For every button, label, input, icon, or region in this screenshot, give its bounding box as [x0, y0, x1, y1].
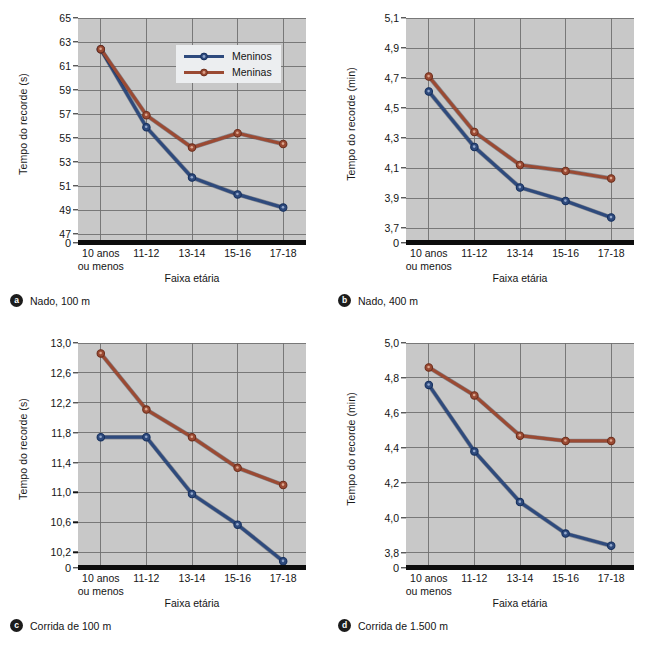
caption-text-b: Nado, 400 m — [358, 295, 418, 307]
y-axis-title-d: Tempo do recorde (min) — [345, 364, 357, 534]
y-tick-a-6: 53 — [59, 156, 78, 168]
y-tick-b-5: 4,1 — [384, 162, 406, 174]
x-tick-d-3: 15-16 — [552, 572, 579, 585]
x-tick-c-3: 15-16 — [224, 572, 251, 585]
y-tick-b-2: 4,7 — [384, 72, 406, 84]
y-tick-d-6: 3,8 — [384, 547, 406, 559]
legend-a: Meninos Meninas — [176, 45, 281, 83]
caption-badge-b: b — [338, 294, 351, 307]
caption-badge-c: c — [10, 619, 23, 632]
y-tick-a-8: 49 — [59, 204, 78, 216]
x-tick-c-0: 10 anosou menos — [78, 572, 124, 597]
x-axis-bar-a — [78, 240, 306, 245]
plot-area-d: 5,04,84,64,44,24,03,80 — [406, 343, 634, 565]
y-tick-a-7: 51 — [59, 180, 78, 192]
y-tick-c-7: 10,2 — [51, 546, 78, 558]
y-tick-c-3: 11,8 — [51, 427, 78, 439]
y-tick-a-1: 63 — [59, 36, 78, 48]
caption-a: a Nado, 100 m — [10, 294, 90, 307]
x-tick-b-0: 10 anosou menos — [406, 247, 452, 272]
y-tick-b-4: 4,3 — [384, 132, 406, 144]
y-tick-a-0: 65 — [59, 12, 78, 24]
y-tick-b-1: 4,9 — [384, 42, 406, 54]
x-axis-title-a: Faixa etária — [78, 272, 306, 284]
caption-d: d Corrida de 1.500 m — [338, 619, 448, 632]
y-tick-c-6: 10,6 — [51, 516, 78, 528]
caption-badge-a: a — [10, 294, 23, 307]
plot-canvas-d — [406, 343, 634, 565]
plot-area-c: 13,012,612,211,811,411,010,610,20 — [78, 343, 306, 565]
y-tick-d-2: 4,6 — [384, 407, 406, 419]
caption-badge-d: d — [338, 619, 351, 632]
x-tick-b-1: 11-12 — [461, 247, 487, 260]
legend-label-meninos: Meninos — [232, 50, 272, 62]
figure-sheet: Tempo do recorde (s) 6563615957555351494… — [0, 0, 655, 650]
x-axis-bar-c — [78, 565, 306, 570]
legend-swatch-meninos — [183, 51, 225, 62]
x-tick-d-4: 17-18 — [598, 572, 625, 585]
plot-canvas-c — [78, 343, 306, 565]
x-axis-bar-d — [406, 565, 634, 570]
y-tick-c-0: 13,0 — [51, 337, 78, 349]
legend-label-meninas: Meninas — [232, 66, 272, 78]
x-tick-a-0: 10 anosou menos — [78, 247, 124, 272]
plot-area-b: 5,14,94,74,54,34,13,93,70 — [406, 18, 634, 240]
y-tick-a-3: 59 — [59, 84, 78, 96]
y-tick-c-2: 12,2 — [51, 397, 78, 409]
x-tick-d-0: 10 anosou menos — [406, 572, 452, 597]
x-axis-title-b: Faixa etária — [406, 272, 634, 284]
y-tick-d-1: 4,8 — [384, 372, 406, 384]
x-tick-c-1: 11-12 — [133, 572, 159, 585]
caption-c: c Corrida de 100 m — [10, 619, 111, 632]
chart-panel-d: Tempo do recorde (min) 5,04,84,64,44,24,… — [328, 325, 655, 650]
x-axis-bar-b — [406, 240, 634, 245]
y-tick-b-3: 4,5 — [384, 102, 406, 114]
caption-text-c: Corrida de 100 m — [30, 620, 111, 632]
plot-canvas-b — [406, 18, 634, 240]
y-tick-d-4: 4,2 — [384, 477, 406, 489]
y-tick-c-4: 11,4 — [51, 457, 78, 469]
x-tick-d-2: 13-14 — [507, 572, 534, 585]
y-axis-title-a: Tempo do recorde (s) — [17, 39, 29, 209]
x-tick-a-2: 13-14 — [179, 247, 206, 260]
caption-b: b Nado, 400 m — [338, 294, 418, 307]
x-tick-a-3: 15-16 — [224, 247, 251, 260]
chart-panel-b: Tempo do recorde (min) 5,14,94,74,54,34,… — [328, 0, 655, 325]
y-tick-c-1: 12,6 — [51, 367, 78, 379]
y-tick-a-2: 61 — [59, 60, 78, 72]
y-tick-b-7: 3,7 — [384, 222, 406, 234]
x-tick-b-2: 13-14 — [507, 247, 534, 260]
legend-item-meninas: Meninas — [183, 66, 272, 78]
y-tick-a-5: 55 — [59, 132, 78, 144]
legend-item-meninos: Meninos — [183, 50, 272, 62]
plot-area-a: 656361595755535149470 Meninos — [78, 18, 306, 240]
legend-swatch-meninas — [183, 67, 225, 78]
x-tick-b-3: 15-16 — [552, 247, 579, 260]
y-tick-d-0: 5,0 — [384, 337, 406, 349]
y-tick-c-5: 11,0 — [51, 486, 78, 498]
caption-text-d: Corrida de 1.500 m — [358, 620, 448, 632]
x-tick-c-2: 13-14 — [179, 572, 206, 585]
x-tick-a-1: 11-12 — [133, 247, 159, 260]
chart-panel-c: Tempo do recorde (s) 13,012,612,211,811,… — [0, 325, 327, 650]
caption-text-a: Nado, 100 m — [30, 295, 90, 307]
x-tick-d-1: 11-12 — [461, 572, 487, 585]
x-tick-c-4: 17-18 — [270, 572, 297, 585]
y-tick-d-5: 4,0 — [384, 512, 406, 524]
y-tick-b-6: 3,9 — [384, 192, 406, 204]
x-tick-b-4: 17-18 — [598, 247, 625, 260]
x-tick-a-4: 17-18 — [270, 247, 297, 260]
y-tick-d-3: 4,4 — [384, 442, 406, 454]
chart-panel-a: Tempo do recorde (s) 6563615957555351494… — [0, 0, 327, 325]
y-axis-title-c: Tempo do recorde (s) — [17, 364, 29, 534]
x-axis-title-c: Faixa etária — [78, 597, 306, 609]
y-tick-a-4: 57 — [59, 108, 78, 120]
y-axis-title-b: Tempo do recorde (min) — [345, 39, 357, 209]
x-axis-title-d: Faixa etária — [406, 597, 634, 609]
y-tick-b-0: 5,1 — [384, 12, 406, 24]
